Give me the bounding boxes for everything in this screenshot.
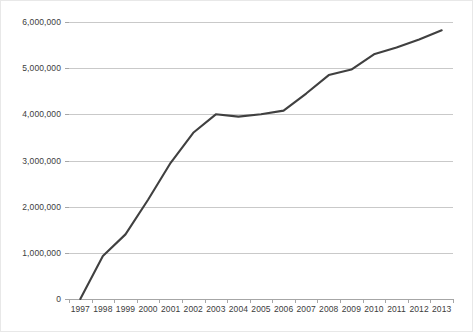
x-axis-tick-mark bbox=[159, 299, 160, 303]
y-axis-tick-label: 2,000,000 bbox=[1, 202, 61, 212]
x-axis-tick-mark bbox=[227, 299, 228, 303]
x-axis-tick-mark bbox=[137, 299, 138, 303]
x-axis-tick-label: 2007 bbox=[297, 304, 316, 314]
y-axis-tick-label: 1,000,000 bbox=[1, 248, 61, 258]
y-axis-tick-label: 5,000,000 bbox=[1, 63, 61, 73]
y-axis-tick-label: 6,000,000 bbox=[1, 17, 61, 27]
x-axis-tick-mark bbox=[453, 299, 454, 303]
x-axis-tick-mark bbox=[430, 299, 431, 303]
x-axis-tick-label: 1997 bbox=[71, 304, 90, 314]
x-axis-tick-label: 2012 bbox=[409, 304, 428, 314]
data-series-line bbox=[80, 30, 441, 299]
x-axis-tick-mark bbox=[340, 299, 341, 303]
x-axis: 1997199819992000200120022003200420052006… bbox=[69, 304, 453, 324]
x-axis-tick-label: 2003 bbox=[206, 304, 225, 314]
x-axis-tick-label: 2013 bbox=[432, 304, 451, 314]
x-axis-tick-mark bbox=[114, 299, 115, 303]
x-axis-tick-label: 2006 bbox=[274, 304, 293, 314]
y-axis-tick-label: 3,000,000 bbox=[1, 156, 61, 166]
x-axis-tick-mark bbox=[272, 299, 273, 303]
series-line-chart bbox=[69, 22, 453, 299]
x-axis-tick-mark bbox=[205, 299, 206, 303]
y-axis-tick-label: 4,000,000 bbox=[1, 109, 61, 119]
x-axis-tick-label: 2005 bbox=[251, 304, 270, 314]
x-axis-tick-mark bbox=[69, 299, 70, 303]
x-axis-tick-mark bbox=[182, 299, 183, 303]
x-axis-tick-label: 2011 bbox=[387, 304, 406, 314]
chart-container: 01,000,0002,000,0003,000,0004,000,0005,0… bbox=[0, 0, 473, 332]
x-axis-tick-mark bbox=[317, 299, 318, 303]
x-axis-tick-label: 2008 bbox=[319, 304, 338, 314]
x-axis-tick-mark bbox=[250, 299, 251, 303]
y-axis: 01,000,0002,000,0003,000,0004,000,0005,0… bbox=[1, 1, 65, 332]
x-axis-tick-label: 2010 bbox=[364, 304, 383, 314]
x-axis-tick-label: 2002 bbox=[184, 304, 203, 314]
x-axis-tick-label: 2000 bbox=[138, 304, 157, 314]
x-axis-tick-label: 2004 bbox=[229, 304, 248, 314]
x-axis-tick-mark bbox=[363, 299, 364, 303]
x-axis-tick-mark bbox=[385, 299, 386, 303]
x-axis-tick-mark bbox=[92, 299, 93, 303]
x-axis-tick-label: 2001 bbox=[161, 304, 180, 314]
x-axis-baseline bbox=[69, 299, 453, 300]
x-axis-tick-label: 2009 bbox=[342, 304, 361, 314]
x-axis-tick-mark bbox=[295, 299, 296, 303]
x-axis-tick-label: 1998 bbox=[93, 304, 112, 314]
x-axis-tick-mark bbox=[408, 299, 409, 303]
y-axis-tick-label: 0 bbox=[1, 294, 61, 304]
x-axis-tick-label: 1999 bbox=[116, 304, 135, 314]
